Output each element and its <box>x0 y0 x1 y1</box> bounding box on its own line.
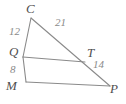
segment-CQ <box>23 18 31 57</box>
measure-label-ct: 21 <box>55 17 66 28</box>
vertex-label-p: P <box>110 82 118 95</box>
measure-label-qm: 8 <box>10 64 16 75</box>
vertex-label-m: M <box>6 79 17 92</box>
measure-label-cq: 12 <box>9 26 20 37</box>
vertex-label-q: Q <box>9 45 18 58</box>
measure-label-tp: 14 <box>93 59 104 70</box>
segment-CP <box>31 18 110 86</box>
vertex-label-c: C <box>26 2 35 15</box>
geometry-figure: C Q M T P 12 8 21 14 <box>0 0 126 104</box>
segment-MP <box>26 82 110 86</box>
segment-QT <box>23 57 85 62</box>
segment-QM <box>23 57 26 82</box>
